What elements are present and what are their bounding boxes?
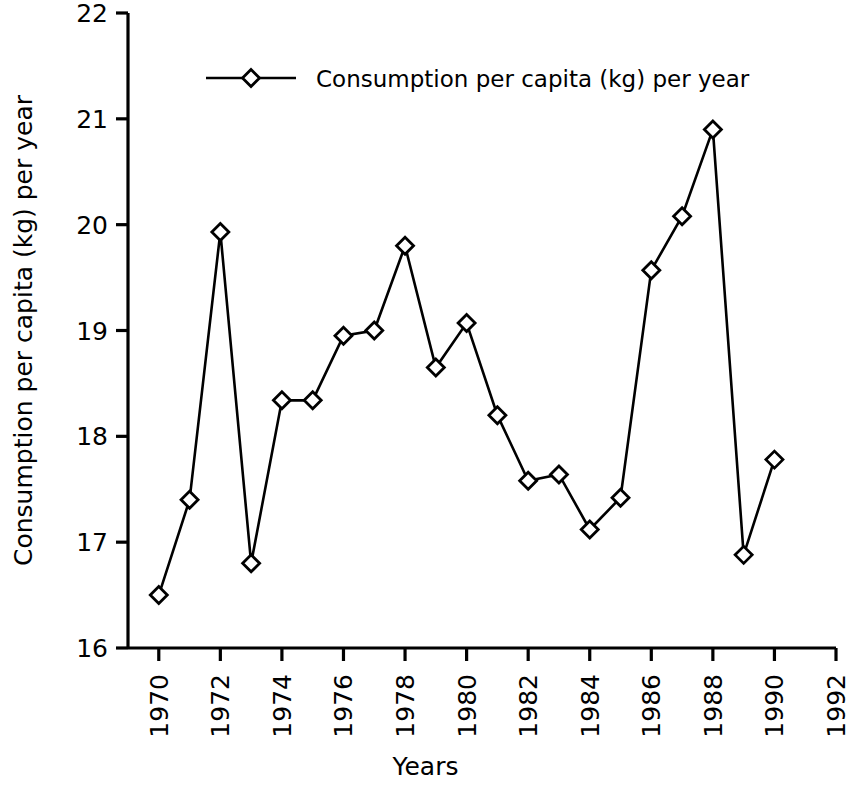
x-tick-label: 1990 [760,674,789,738]
y-tick-label: 16 [76,634,108,663]
y-tick-label: 22 [76,0,108,28]
data-point-marker [335,327,352,344]
series-line [159,129,775,595]
x-tick-label: 1986 [637,674,666,738]
data-series [150,121,783,604]
x-tick-label: 1980 [453,674,482,738]
x-axis-ticks: 1970197219741976197819801982198419861988… [145,648,851,738]
data-point-marker [766,451,783,468]
x-tick-label: 1988 [699,674,728,738]
chart-figure: Consumption per capita (kg) per year 161… [0,0,851,798]
data-point-marker [704,121,721,138]
data-point-marker [458,315,475,332]
x-tick-label: 1982 [514,674,543,738]
legend-sample-marker [243,70,260,87]
x-tick-label: 1976 [329,674,358,738]
data-point-marker [674,208,691,225]
x-tick-label: 1972 [206,674,235,738]
data-point-marker [643,262,660,279]
x-tick-label: 1978 [391,674,420,738]
x-tick-label: 1984 [576,674,605,738]
data-point-marker [212,224,229,241]
x-tick-label: 1970 [145,674,174,738]
y-tick-label: 21 [76,105,108,134]
y-axis-ticks: 16171819202122 [76,0,128,663]
legend-label: Consumption per capita (kg) per year [316,66,750,92]
axes [128,13,836,648]
data-point-marker [397,237,414,254]
x-tick-label: 1974 [268,674,297,738]
data-point-marker [273,392,290,409]
data-point-marker [304,392,321,409]
x-tick-label: 1992 [822,674,851,738]
data-point-marker [735,546,752,563]
data-point-marker [427,359,444,376]
x-axis-title: Years [0,752,851,781]
y-tick-label: 18 [76,422,108,451]
data-point-marker [181,491,198,508]
data-point-marker [489,407,506,424]
y-tick-label: 19 [76,317,108,346]
y-tick-label: 17 [76,528,108,557]
data-point-marker [243,555,260,572]
x-axis-title-text: Years [393,752,459,781]
data-point-marker [150,587,167,604]
y-tick-label: 20 [76,211,108,240]
data-point-marker [550,466,567,483]
chart-legend: Consumption per capita (kg) per year [206,66,750,92]
data-point-marker [366,322,383,339]
data-point-marker [520,472,537,489]
line-chart-plot: 16171819202122 1970197219741976197819801… [0,0,851,760]
